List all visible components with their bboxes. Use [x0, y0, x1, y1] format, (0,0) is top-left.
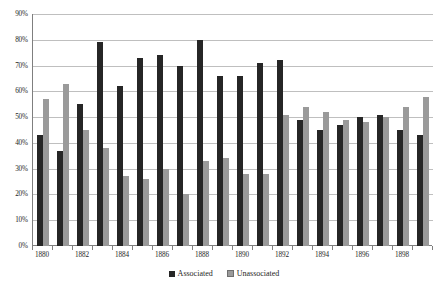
bar-group-1883 [97, 14, 110, 246]
x-axis-tick [132, 246, 133, 250]
bar-unassociated-1881 [63, 84, 69, 246]
bar-associated-1895 [337, 125, 343, 246]
x-axis-tick [372, 246, 373, 250]
legend-entry-associated[interactable]: Associated [169, 269, 213, 278]
x-axis-tick [192, 246, 193, 250]
bar-associated-1894 [317, 130, 323, 246]
bar-group-1892 [277, 14, 290, 246]
bar-associated-1886 [157, 55, 163, 246]
x-axis-tick [212, 246, 213, 250]
y-axis-tick-label: 20% [2, 190, 28, 198]
bar-unassociated-1886 [163, 169, 169, 246]
bar-group-1887 [177, 14, 190, 246]
x-axis-tick [252, 246, 253, 250]
y-axis-tick-label: 90% [2, 10, 28, 18]
chart-legend: AssociatedUnassociated [0, 269, 448, 278]
bar-associated-1896 [357, 117, 363, 246]
legend-entry-unassociated[interactable]: Unassociated [227, 269, 280, 278]
x-axis-tick [112, 246, 113, 250]
bar-associated-1890 [237, 76, 243, 246]
bar-unassociated-1887 [183, 194, 189, 246]
x-axis-tick-label: 1890 [222, 251, 262, 259]
bar-group-1894 [317, 14, 330, 246]
bar-group-1888 [197, 14, 210, 246]
bar-unassociated-1885 [143, 179, 149, 246]
x-axis-tick [232, 246, 233, 250]
y-axis-tick-label: 50% [2, 113, 28, 121]
x-axis-tick [72, 246, 73, 250]
bar-associated-1882 [77, 104, 83, 246]
bar-unassociated-1895 [343, 120, 349, 246]
legend-swatch-icon [169, 271, 175, 277]
y-axis-tick-label: 40% [2, 139, 28, 147]
x-axis-tick [92, 246, 93, 250]
x-axis-tick [432, 246, 433, 250]
bar-group-1882 [77, 14, 90, 246]
bar-series-container [33, 14, 432, 246]
bar-group-1884 [117, 14, 130, 246]
y-axis-tick-label: 10% [2, 216, 28, 224]
bar-unassociated-1889 [223, 158, 229, 246]
x-axis-tick-label: 1892 [262, 251, 302, 259]
bar-group-1891 [257, 14, 270, 246]
bar-unassociated-1884 [123, 176, 129, 246]
bar-group-1886 [157, 14, 170, 246]
bar-associated-1899 [417, 135, 423, 246]
x-axis-tick-label: 1898 [382, 251, 422, 259]
bar-group-1895 [337, 14, 350, 246]
y-axis-tick-label: 80% [2, 36, 28, 44]
bar-unassociated-1899 [423, 97, 429, 247]
y-axis-tick-label: 0% [2, 242, 28, 250]
bar-unassociated-1897 [383, 117, 389, 246]
x-axis-tick [172, 246, 173, 250]
x-axis-tick [152, 246, 153, 250]
x-axis-tick [32, 246, 33, 250]
bar-associated-1885 [137, 58, 143, 246]
x-axis-tick [292, 246, 293, 250]
x-axis-tick-label: 1886 [142, 251, 182, 259]
bar-group-1880 [37, 14, 50, 246]
bar-group-1889 [217, 14, 230, 246]
x-axis-tick [352, 246, 353, 250]
x-axis-tick-label: 1888 [182, 251, 222, 259]
bar-group-1897 [377, 14, 390, 246]
bar-associated-1887 [177, 66, 183, 246]
bar-associated-1880 [37, 135, 43, 246]
bar-unassociated-1888 [203, 161, 209, 246]
bar-group-1896 [357, 14, 370, 246]
legend-label: Unassociated [237, 269, 280, 278]
bar-group-1885 [137, 14, 150, 246]
bar-associated-1893 [297, 120, 303, 246]
x-axis-tick-label: 1884 [102, 251, 142, 259]
x-axis-tick [412, 246, 413, 250]
legend-label: Associated [178, 269, 213, 278]
bar-group-1899 [417, 14, 430, 246]
x-axis-tick [312, 246, 313, 250]
y-axis-tick-label: 30% [2, 165, 28, 173]
bar-group-1890 [237, 14, 250, 246]
x-axis-tick [52, 246, 53, 250]
x-axis-tick-label: 1880 [22, 251, 62, 259]
x-axis-tick [272, 246, 273, 250]
bar-unassociated-1893 [303, 107, 309, 246]
bar-group-1893 [297, 14, 310, 246]
bar-unassociated-1891 [263, 174, 269, 246]
bar-unassociated-1882 [83, 130, 89, 246]
bar-associated-1889 [217, 76, 223, 246]
x-axis-tick-label: 1882 [62, 251, 102, 259]
bar-unassociated-1890 [243, 174, 249, 246]
y-axis-tick-label: 60% [2, 87, 28, 95]
x-axis-tick-label: 1896 [342, 251, 382, 259]
bar-unassociated-1896 [363, 122, 369, 246]
bar-unassociated-1894 [323, 112, 329, 246]
bar-unassociated-1898 [403, 107, 409, 246]
bar-unassociated-1892 [283, 115, 289, 246]
bar-associated-1888 [197, 40, 203, 246]
bar-associated-1884 [117, 86, 123, 246]
x-axis-tick [392, 246, 393, 250]
bar-associated-1898 [397, 130, 403, 246]
bar-associated-1892 [277, 60, 283, 246]
bar-associated-1883 [97, 42, 103, 246]
bar-unassociated-1883 [103, 148, 109, 246]
bar-group-1881 [57, 14, 70, 246]
